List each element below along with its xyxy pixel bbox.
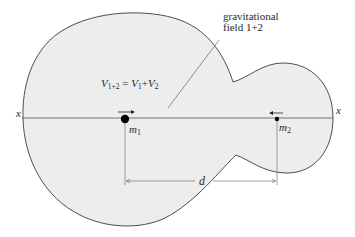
gravitational-field-diagram: x x m1 m2 d V1+2 = V1+V2 gravitational f… (0, 0, 355, 237)
field-label-line-2: field 1+2 (223, 21, 263, 33)
field-region (23, 13, 333, 226)
axis-label-left: x (15, 107, 21, 119)
mass-1-dot (121, 115, 129, 123)
axis-label-right: x (335, 104, 341, 116)
distance-label: d (199, 174, 206, 188)
